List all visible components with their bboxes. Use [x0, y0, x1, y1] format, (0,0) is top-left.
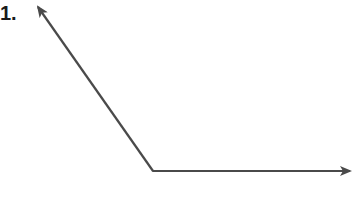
- upper-left-ray: [38, 7, 153, 171]
- vertex-point: [152, 170, 154, 172]
- angle-diagram: [0, 0, 354, 206]
